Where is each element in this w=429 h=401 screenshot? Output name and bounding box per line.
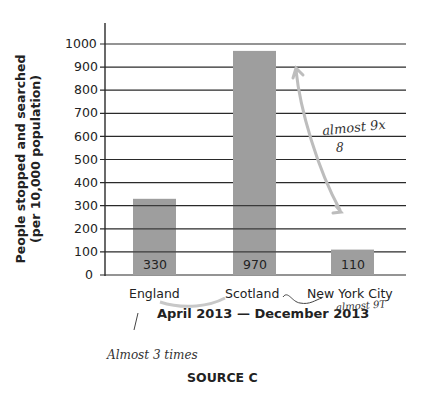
handwriting-almost-3-times: Almost 3 times <box>107 348 198 362</box>
bar-value-scotland: 970 <box>243 257 267 272</box>
y-tick: 0 <box>85 267 93 282</box>
bar-value-england: 330 <box>143 257 167 272</box>
y-tick: 600 <box>74 129 98 144</box>
slash-annotation <box>134 313 138 330</box>
category-label-england: England <box>129 286 180 301</box>
bar-value-new-york-city: 110 <box>341 257 365 272</box>
y-tick: 400 <box>74 175 98 190</box>
bars <box>133 51 374 275</box>
category-label-scotland: Scotland <box>225 286 279 301</box>
y-tick: 100 <box>74 244 98 259</box>
y-tick: 200 <box>74 221 98 236</box>
y-axis-title: People stopped and searched (per 10,000 … <box>13 49 43 269</box>
bar-scotland <box>233 51 276 275</box>
y-tick: 900 <box>74 59 98 74</box>
chart-canvas <box>0 0 429 401</box>
y-tick: 700 <box>74 105 98 120</box>
y-tick: 1000 <box>65 36 97 51</box>
handwriting-mark: 8 <box>336 141 344 155</box>
bar-chart: 0 100 200 300 400 500 600 700 800 900 10… <box>0 0 429 401</box>
source-caption: SOURCE C <box>187 370 258 385</box>
y-tick: 500 <box>74 152 98 167</box>
y-tick: 800 <box>74 82 98 97</box>
y-axis-title-line2: (per 10,000 population) <box>28 49 43 269</box>
y-tick: 300 <box>74 198 98 213</box>
y-axis-title-line1: People stopped and searched <box>13 49 28 269</box>
